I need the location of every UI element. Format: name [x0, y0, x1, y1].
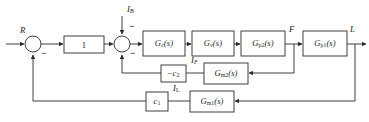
block-label-gain2-sub: 2: [176, 72, 179, 78]
outer-summing-junction: [25, 36, 41, 52]
block-label-meas1-sub: m1: [207, 100, 214, 106]
block-label-meas2: Gm2(s): [214, 69, 237, 79]
block-label-meas1-suffix: (s): [214, 96, 223, 106]
block-label-controller-suffix: (s): [164, 38, 173, 48]
sign-outer-sum-bottom: −: [41, 49, 46, 58]
signal-label-disturbance: IB: [127, 5, 134, 14]
block-label-meas2-suffix: (s): [228, 68, 237, 78]
block-label-meas2-sub: m2: [221, 72, 228, 78]
signal-label-flow: F: [289, 25, 294, 34]
block-label-gain2-base: −c: [167, 68, 177, 78]
block-label-valve-suffix: (s): [213, 38, 222, 48]
signal-label-flow-current-sub: F: [194, 59, 198, 65]
signal-label-reference: R: [20, 26, 25, 35]
signal-label-level-current: IL: [173, 84, 180, 93]
block-label-process1: Gp1(s): [314, 39, 336, 49]
block-label-gain2: −c2: [167, 69, 180, 79]
signal-label-flow-current: IF: [191, 56, 198, 65]
signal-label-level-current-sub: L: [176, 87, 180, 93]
block-label-process2-suffix: (s): [264, 38, 273, 48]
block-diagram-figure: 1 Gc(s) Gv(s) Gp2(s) Gp1(s) −c2 Gm2(s) c…: [0, 0, 369, 122]
wire-gain2-to-inner-sum: [122, 55, 161, 73]
signal-label-disturbance-sub: B: [130, 8, 134, 14]
block-label-gain1-sub: 1: [158, 100, 161, 106]
signal-label-level: L: [350, 25, 355, 34]
block-label-unity: 1: [82, 41, 86, 50]
sign-inner-sum-top: −: [129, 22, 134, 31]
inner-summing-junction: [114, 36, 130, 52]
sign-inner-sum-bottom: −: [130, 49, 135, 58]
wire-gain1-to-outer-sum: [33, 55, 146, 101]
block-label-valve: Gv(s): [204, 39, 222, 49]
block-label-process1-suffix: (s): [326, 38, 335, 48]
block-label-process2: Gp2(s): [252, 39, 274, 49]
block-label-controller: Gc(s): [155, 39, 173, 49]
block-label-gain1: c1: [154, 97, 161, 107]
diagram-canvas: [0, 0, 369, 122]
block-label-meas1: Gm1(s): [200, 97, 223, 107]
